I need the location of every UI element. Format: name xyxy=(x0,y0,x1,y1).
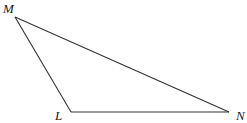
triangle-edges xyxy=(15,17,229,112)
vertex-label-m: M xyxy=(2,1,15,16)
edge-n-m xyxy=(15,17,229,112)
edge-m-l xyxy=(15,17,71,112)
triangle-diagram: M L N xyxy=(0,0,247,123)
vertex-label-n: N xyxy=(235,108,246,123)
vertex-label-l: L xyxy=(54,108,62,123)
